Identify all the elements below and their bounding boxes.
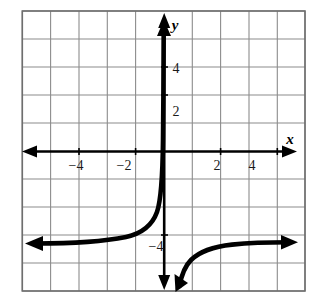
left-branch-arrowhead xyxy=(25,236,43,251)
right-branch-right-arrowhead xyxy=(281,235,298,250)
x-tick-label-2: 2 xyxy=(214,158,221,173)
x-tick-label-minus4: −4 xyxy=(69,158,84,173)
graph-figure: y x −4 −2 2 4 4 2 −4 xyxy=(0,0,315,297)
curve-left-branch xyxy=(36,30,164,244)
x-axis-right-arrowhead xyxy=(282,146,297,158)
x-tick-label-minus2: −2 xyxy=(117,158,132,173)
y-axis-label: y xyxy=(170,17,179,33)
x-axis-label: x xyxy=(285,131,294,147)
x-tick-label-4: 4 xyxy=(249,158,256,173)
y-tick-label-minus4: −4 xyxy=(149,239,164,254)
x-axis-left-arrowhead xyxy=(22,146,37,158)
coordinate-plane-svg: y x −4 −2 2 4 4 2 −4 xyxy=(0,0,315,297)
curve-right-branch xyxy=(180,242,290,286)
y-tick-label-4: 4 xyxy=(173,61,180,76)
y-axis-down-arrowhead xyxy=(158,275,170,290)
y-tick-label-2: 2 xyxy=(173,104,180,119)
